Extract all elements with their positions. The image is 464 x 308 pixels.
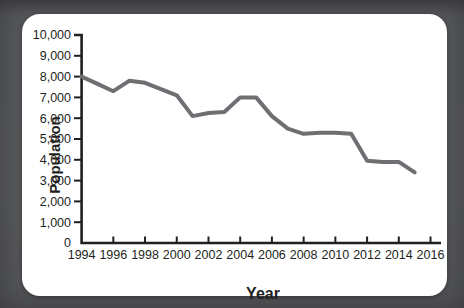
y-tick-label: 4,000 — [40, 153, 71, 167]
x-tick-label: 2010 — [321, 248, 349, 262]
x-tick-label: 1996 — [99, 248, 127, 262]
y-tick-label: 8,000 — [40, 70, 71, 84]
x-tick-label: 2014 — [385, 248, 413, 262]
x-tick-label: 2016 — [417, 248, 445, 262]
population-line — [82, 77, 415, 173]
y-tick-label: 2,000 — [40, 195, 71, 209]
y-tick-label: 3,000 — [40, 174, 71, 188]
x-tick-label: 1998 — [131, 248, 159, 262]
population-line-chart: 01,0002,0003,0004,0005,0006,0007,0008,00… — [0, 0, 464, 308]
x-tick-label: 2004 — [226, 248, 254, 262]
x-tick-label: 2002 — [195, 248, 223, 262]
x-tick-label: 2008 — [290, 248, 318, 262]
y-tick-label: 1,000 — [40, 216, 71, 230]
x-tick-label: 1994 — [68, 248, 96, 262]
axes — [74, 35, 441, 243]
x-tick-label: 2012 — [353, 248, 381, 262]
x-tick-label: 2000 — [163, 248, 191, 262]
y-tick-label: 6,000 — [40, 112, 71, 126]
x-tick-label: 2006 — [258, 248, 286, 262]
y-tick-label: 5,000 — [40, 132, 71, 146]
screenshot-root: DECLINE Population Year 01,0002,0003,000… — [0, 0, 464, 308]
y-tick-label: 10,000 — [33, 28, 71, 42]
y-tick-label: 9,000 — [40, 49, 71, 63]
y-tick-label: 7,000 — [40, 91, 71, 105]
